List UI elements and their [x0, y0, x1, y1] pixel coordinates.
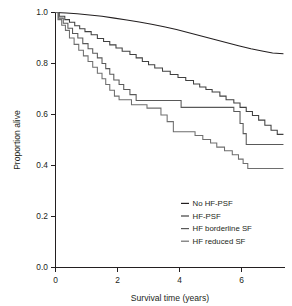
legend-label-3: HF borderline SF — [193, 224, 253, 233]
x-tick-label-2: 2 — [115, 275, 120, 285]
y-axis-title: Proportion alive — [12, 110, 22, 170]
survival-chart-figure: 1.0 0.8 0.6 0.4 0.2 0.0 0 2 4 6 Survival… — [0, 0, 292, 306]
y-tick-label-0.6: 0.6 — [36, 109, 48, 119]
survival-curves-group — [56, 13, 284, 169]
y-axis-ticks — [51, 13, 56, 268]
y-tick-label-1.0: 1.0 — [36, 7, 48, 17]
legend-label-1: No HF-PSF — [193, 199, 234, 208]
survival-curve-no-hf-psf — [56, 13, 284, 54]
y-tick-label-0.0: 0.0 — [36, 262, 48, 272]
y-tick-label-0.2: 0.2 — [36, 211, 48, 221]
x-tick-label-0: 0 — [53, 275, 58, 285]
x-tick-label-4: 4 — [177, 275, 182, 285]
x-axis-title: Survival time (years) — [131, 293, 209, 303]
legend-label-4: HF reduced SF — [193, 237, 246, 246]
x-tick-label-6: 6 — [239, 275, 244, 285]
survival-curve-hf-psf — [56, 13, 284, 135]
survival-curve-hf-reduced-sf — [56, 13, 284, 169]
survival-curve-hf-borderline-sf — [56, 13, 284, 145]
legend-label-2: HF-PSF — [193, 212, 221, 221]
chart-canvas: 1.0 0.8 0.6 0.4 0.2 0.0 0 2 4 6 Survival… — [0, 0, 292, 306]
chart-legend: No HF-PSFHF-PSFHF borderline SFHF reduce… — [181, 199, 252, 246]
y-tick-label-0.4: 0.4 — [36, 160, 48, 170]
x-axis-ticks — [56, 268, 242, 273]
y-tick-label-0.8: 0.8 — [36, 58, 48, 68]
